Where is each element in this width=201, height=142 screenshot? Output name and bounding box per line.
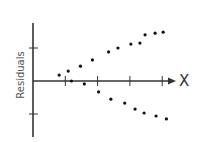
data-point [153, 32, 156, 35]
data-point [109, 98, 112, 101]
residual-plot [0, 0, 201, 142]
data-point [129, 42, 132, 45]
data-point [91, 58, 94, 61]
y-axis-label: Residuals [15, 51, 26, 98]
data-points [58, 31, 168, 121]
data-point [133, 107, 136, 110]
data-point [116, 46, 119, 49]
data-point [107, 50, 110, 53]
data-point [154, 114, 157, 117]
data-point [70, 79, 73, 82]
x-axis-label: X [179, 72, 189, 90]
data-point [123, 102, 126, 105]
x-axis-arrow-icon [168, 78, 176, 85]
data-point [162, 31, 165, 34]
data-point [143, 33, 146, 36]
data-point [143, 111, 146, 114]
data-point [138, 41, 141, 44]
data-point [79, 65, 82, 68]
data-point [97, 90, 100, 93]
axes [29, 23, 176, 137]
data-point [83, 82, 86, 85]
data-point [58, 73, 61, 76]
data-point [165, 117, 168, 120]
data-point [67, 70, 70, 73]
